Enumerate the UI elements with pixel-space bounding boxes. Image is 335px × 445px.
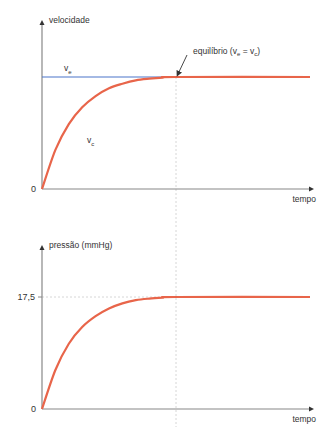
y-axis-label: pressão (mmHg) <box>49 240 112 250</box>
x-axis-label: tempo <box>292 194 316 204</box>
annotation-arrow <box>178 55 187 74</box>
x-axis-arrow-icon <box>309 407 314 412</box>
y-axis-arrow-icon <box>40 245 45 250</box>
series-label-ve-sub: e <box>68 69 72 75</box>
chart-canvas: velocidade tempo 0 ve vc equilíbrio (ve … <box>0 0 335 445</box>
y-axis-label: velocidade <box>49 15 90 25</box>
velocity-chart: velocidade tempo 0 ve vc equilíbrio (ve … <box>31 15 316 229</box>
annotation-mid: = v <box>240 46 255 56</box>
pressure-chart: pressão (mmHg) tempo 0 17,5 <box>17 230 316 427</box>
series-label-vc: vc <box>87 135 94 147</box>
y-tick-label: 17,5 <box>17 292 35 302</box>
series-label-ve: ve <box>64 63 72 75</box>
series-line-pressure <box>42 297 310 409</box>
y-axis-arrow-icon <box>40 20 45 25</box>
annotation-suffix: ) <box>257 46 260 56</box>
annotation-prefix: equilíbrio (v <box>193 46 238 56</box>
annotation-equilibrium: equilíbrio (ve = vc) <box>193 46 260 57</box>
origin-tick-label: 0 <box>31 404 36 414</box>
x-axis-label: tempo <box>292 414 316 424</box>
series-label-vc-sub: c <box>91 141 94 147</box>
x-axis-arrow-icon <box>309 187 314 192</box>
origin-tick-label: 0 <box>31 184 36 194</box>
